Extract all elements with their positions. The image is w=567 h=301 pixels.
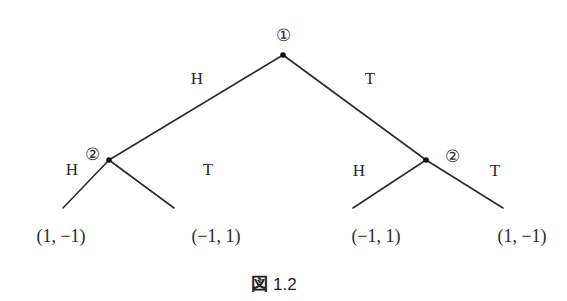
edge-label-right-H: H <box>353 161 365 180</box>
game-tree-diagram: ① ② ② H T H T H T (1, −1) (−1, 1) (−1, 1… <box>0 0 567 301</box>
edge-label-root-H: H <box>191 69 203 88</box>
edge-label-left-H: H <box>66 160 78 179</box>
player-label-left: ② <box>85 145 100 164</box>
payoff-leaf-3: (−1, 1) <box>351 226 400 247</box>
player-label-root: ① <box>276 26 291 45</box>
payoff-leaf-2: (−1, 1) <box>191 226 240 247</box>
edge-label-root-T: T <box>365 69 376 88</box>
player-label-right: ② <box>445 147 460 166</box>
payoff-leaf-4: (1, −1) <box>497 226 546 247</box>
edge-left-T <box>109 160 174 208</box>
payoff-leaf-1: (1, −1) <box>36 226 85 247</box>
edge-root-T <box>283 55 426 160</box>
edge-label-right-T: T <box>490 161 501 180</box>
node-right <box>423 157 429 163</box>
node-root <box>280 52 286 58</box>
figure-caption-prefix: 図 <box>251 275 268 294</box>
edge-label-left-T: T <box>203 160 214 179</box>
figure-caption-number: 1.2 <box>273 275 297 294</box>
node-left <box>106 157 112 163</box>
